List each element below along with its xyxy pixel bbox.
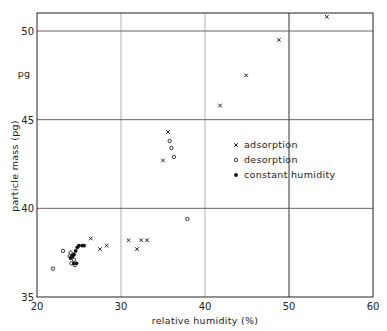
legend-label: desorption	[244, 154, 298, 165]
y-tick-label: 50	[21, 26, 34, 37]
constant-humidity-point	[234, 173, 238, 177]
legend-label: adsorption	[244, 139, 298, 150]
adsorption-point	[135, 247, 139, 251]
adsorption-point	[89, 237, 93, 241]
y-tick-label: 35	[21, 292, 34, 303]
adsorption-point	[98, 247, 102, 251]
adsorption-point	[277, 38, 281, 42]
adsorption-point	[218, 104, 222, 108]
constant-humidity-point	[74, 249, 78, 253]
adsorption-point	[105, 244, 109, 248]
desorption-point	[69, 251, 72, 254]
desorption-point	[72, 258, 75, 261]
adsorption-point	[161, 159, 165, 163]
x-tick-label: 50	[283, 301, 296, 312]
adsorption-point	[244, 74, 248, 78]
desorption-point	[170, 146, 173, 149]
constant-humidity-point	[72, 253, 76, 257]
adsorption-point	[234, 143, 238, 147]
constant-humidity-point	[82, 244, 86, 248]
x-tick-label: 30	[115, 301, 128, 312]
desorption-point	[186, 217, 189, 220]
legend-label: constant humidity	[244, 169, 335, 180]
constant-humidity-point	[75, 261, 79, 265]
grid-lines	[37, 13, 373, 297]
desorption-point	[51, 267, 54, 270]
scatter-chart: 203040506035404550 adsorptiondesorptionc…	[0, 0, 387, 331]
y-unit-label: pg	[18, 68, 31, 79]
adsorption-point	[145, 238, 149, 242]
y-tick-label: 45	[21, 115, 34, 126]
constant-humidity-point	[77, 244, 81, 248]
adsorption-point	[325, 15, 329, 19]
y-tick-label: 40	[21, 203, 34, 214]
x-tick-label: 60	[367, 301, 380, 312]
y-axis-label: particle mass (pg)	[9, 120, 20, 212]
x-axis-label: relative humidity (%)	[152, 315, 259, 326]
adsorption-point	[139, 238, 143, 242]
desorption-point	[168, 139, 171, 142]
x-tick-label: 40	[199, 301, 212, 312]
desorption-point	[61, 249, 64, 252]
desorption-point	[234, 158, 237, 161]
adsorption-point	[166, 130, 170, 134]
desorption-point	[172, 155, 175, 158]
legend: adsorptiondesorptionconstant humidity	[234, 139, 335, 180]
adsorption-point	[127, 238, 131, 242]
